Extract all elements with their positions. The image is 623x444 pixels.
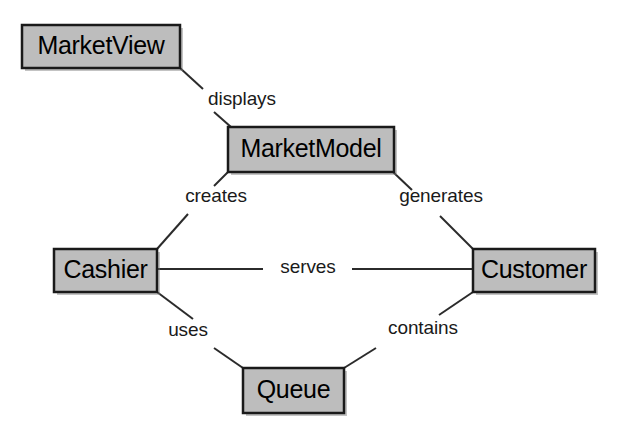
relation-label-contains: contains <box>388 317 458 338</box>
relation-connector-creates <box>157 172 228 249</box>
relation-label-serves: serves <box>280 256 335 277</box>
connector-segment-displays-2 <box>214 112 231 127</box>
relation-label-displays: displays <box>208 88 276 109</box>
connector-segment-uses-1 <box>157 292 193 319</box>
class-node-label-marketmodel: MarketModel <box>240 134 381 162</box>
class-node-cashier[interactable]: Cashier <box>54 249 160 295</box>
connector-segment-uses-2 <box>214 348 243 368</box>
node-layer: MarketViewMarketModelCashierCustomerQueu… <box>22 25 598 416</box>
connector-segment-contains-1 <box>439 292 473 315</box>
connector-segment-creates-1 <box>214 172 228 186</box>
relation-label-generates: generates <box>399 185 483 206</box>
relation-label-uses: uses <box>168 319 208 340</box>
diagram-canvas: MarketViewMarketModelCashierCustomerQueu… <box>0 0 623 444</box>
relation-label-creates: creates <box>185 185 247 206</box>
class-node-marketview[interactable]: MarketView <box>22 25 183 71</box>
connector-segment-generates-2 <box>440 216 473 249</box>
class-node-queue[interactable]: Queue <box>243 368 347 416</box>
class-node-label-marketview: MarketView <box>37 31 165 59</box>
class-node-marketmodel[interactable]: MarketModel <box>228 127 397 175</box>
connector-segment-contains-2 <box>344 348 376 368</box>
class-node-label-customer: Customer <box>481 255 587 283</box>
class-node-label-cashier: Cashier <box>63 255 147 283</box>
relation-connector-generates <box>393 172 473 249</box>
connector-segment-displays-1 <box>180 68 203 89</box>
class-diagram: MarketViewMarketModelCashierCustomerQueu… <box>0 0 623 444</box>
class-node-label-queue: Queue <box>257 375 331 403</box>
connector-segment-creates-2 <box>157 214 188 249</box>
class-node-customer[interactable]: Customer <box>473 249 598 295</box>
